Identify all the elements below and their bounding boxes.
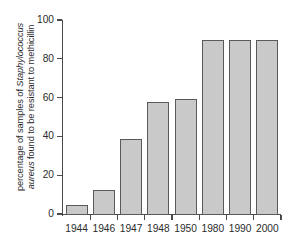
x-tick-1944 — [90, 215, 91, 220]
y-tick-label-80: 80 — [32, 54, 54, 64]
x-tick-label-1944: 1944 — [63, 223, 90, 234]
y-tick-label-60: 60 — [32, 93, 54, 103]
x-tick-label-1980: 1980 — [199, 223, 226, 234]
y-tick-60 — [57, 97, 62, 98]
x-tick-1947 — [144, 215, 145, 220]
y-tick-80 — [57, 58, 62, 59]
bar-1950 — [175, 99, 197, 215]
y-tick-label-100: 100 — [32, 15, 54, 25]
y-tick-label-40: 40 — [32, 131, 54, 141]
y-tick-label-20: 20 — [32, 170, 54, 180]
x-tick-1980 — [226, 215, 227, 220]
y-axis-title: percentage of samples of Staphylococcus … — [14, 2, 38, 212]
x-tick-label-2000: 2000 — [254, 223, 281, 234]
y-axis-title-line-2: aureus found to be resistant to methicil… — [26, 25, 37, 190]
bar-1947 — [120, 139, 142, 215]
bar-1946 — [93, 190, 115, 215]
y-tick-label-0: 0 — [32, 209, 54, 219]
x-tick-1948 — [171, 215, 172, 220]
x-tick-label-1950: 1950 — [172, 223, 199, 234]
y-tick-20 — [57, 175, 62, 176]
y-axis-title-line-1: percentage of samples of Staphylococcus — [15, 23, 26, 191]
bar-1990 — [229, 40, 251, 215]
bar-1980 — [202, 40, 224, 215]
bar-chart: percentage of samples of Staphylococcus … — [0, 0, 289, 250]
x-tick-label-1948: 1948 — [145, 223, 172, 234]
x-tick-1946 — [117, 215, 118, 220]
x-tick-2000 — [280, 215, 281, 220]
y-tick-100 — [57, 19, 62, 20]
x-tick-label-1947: 1947 — [118, 223, 145, 234]
bar-1948 — [147, 102, 169, 215]
x-tick-1990 — [253, 215, 254, 220]
bars-group — [63, 20, 281, 215]
y-tick-40 — [57, 136, 62, 137]
x-tick-1950 — [199, 215, 200, 220]
y-tick-0 — [57, 213, 62, 214]
bar-2000 — [256, 40, 278, 215]
x-tick-label-1946: 1946 — [90, 223, 117, 234]
bar-1944 — [66, 205, 88, 215]
x-tick-label-1990: 1990 — [227, 223, 254, 234]
